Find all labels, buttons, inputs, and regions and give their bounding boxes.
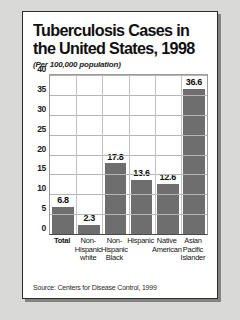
x-axis-category-label: AsianPacificIslander bbox=[177, 237, 209, 263]
gridline-vertical bbox=[102, 75, 103, 234]
title-line-1: Tuberculosis Cases in bbox=[33, 21, 189, 40]
gridline-vertical bbox=[76, 75, 77, 234]
page-title: Tuberculosis Cases in the United States,… bbox=[33, 22, 204, 57]
bar bbox=[157, 184, 179, 234]
y-axis-labels: 0510152025303540 bbox=[23, 68, 49, 231]
bar bbox=[183, 89, 205, 234]
y-axis-tick: 35 bbox=[37, 84, 46, 94]
y-axis-tick: 40 bbox=[37, 64, 46, 74]
bar-value-label: 17.8 bbox=[107, 152, 123, 162]
gridline-vertical bbox=[181, 75, 182, 234]
y-axis-tick: 30 bbox=[37, 104, 46, 114]
y-axis-tick: 5 bbox=[42, 203, 46, 213]
y-axis-tick: 25 bbox=[37, 124, 46, 134]
bar-value-label: 36.6 bbox=[186, 77, 202, 87]
plot-area: 6.82.317.813.612.636.6 bbox=[49, 74, 208, 235]
y-axis-tick: 0 bbox=[42, 223, 46, 233]
bar bbox=[52, 207, 74, 234]
bar-value-label: 6.8 bbox=[57, 195, 69, 205]
y-axis-tick: 10 bbox=[37, 183, 46, 193]
title-line-2: the United States, 1998 bbox=[33, 39, 195, 58]
x-axis-labels: TotalNon-HispanicwhiteNon-HispanicBlackH… bbox=[49, 237, 208, 283]
chart-page: Tuberculosis Cases in the United States,… bbox=[0, 0, 240, 320]
y-axis-tick: 20 bbox=[37, 144, 46, 154]
chart-card: Tuberculosis Cases in the United States,… bbox=[22, 11, 218, 299]
gridline-vertical bbox=[155, 75, 156, 234]
y-axis-tick: 15 bbox=[37, 163, 46, 173]
gridline-vertical bbox=[129, 75, 130, 234]
bar bbox=[131, 180, 153, 234]
bar bbox=[78, 225, 100, 234]
source-note: Source: Centers for Disease Control, 199… bbox=[33, 284, 157, 291]
